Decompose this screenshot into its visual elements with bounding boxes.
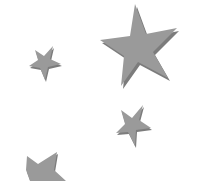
star-illustration xyxy=(0,0,200,181)
background xyxy=(0,0,200,181)
